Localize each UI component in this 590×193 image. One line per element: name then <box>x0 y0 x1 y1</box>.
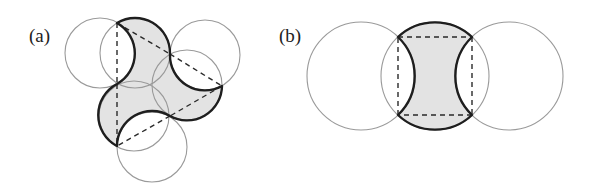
panel-label-a: (a) <box>29 26 50 45</box>
figure: (a) (b) <box>0 0 590 193</box>
panel-b <box>307 22 563 130</box>
shaded-region-a <box>98 18 222 146</box>
panel-label-b: (b) <box>279 26 301 45</box>
panel-a <box>65 18 240 182</box>
shaded-region-b <box>398 22 472 129</box>
